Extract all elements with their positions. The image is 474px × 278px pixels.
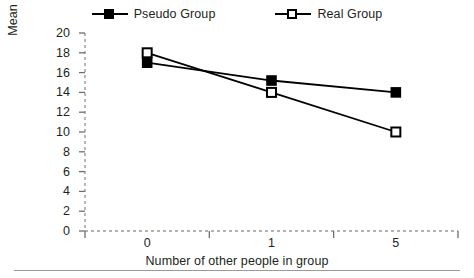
data-point-open-square: [391, 128, 400, 137]
x-axis-tick-labels: 015: [0, 236, 474, 254]
series-markers: [143, 48, 401, 136]
y-axis-ticks: [79, 33, 85, 231]
x-axis-title: Number of other people in group: [0, 254, 474, 268]
x-tick-label: 5: [376, 236, 416, 250]
data-point-filled-square: [267, 76, 276, 85]
data-point-filled-square: [143, 58, 152, 67]
data-point-filled-square: [391, 88, 400, 97]
x-tick-label: 0: [127, 236, 167, 250]
bottom-divider: [14, 270, 460, 271]
data-point-open-square: [267, 88, 276, 97]
data-point-open-square: [143, 48, 152, 57]
x-tick-label: 1: [252, 236, 292, 250]
chart-figure: Pseudo Group Real Group Mean number of e…: [0, 0, 474, 278]
axis-lines: [85, 33, 458, 231]
